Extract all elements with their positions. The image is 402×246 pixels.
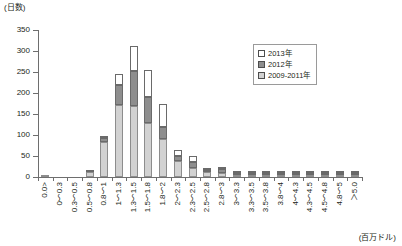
y-axis-unit-label: (日数) — [4, 3, 25, 13]
x-axis-tick-label: 2〜2.3 — [174, 182, 182, 206]
legend-label-2013: 2013年 — [268, 49, 292, 58]
bar-segment-2009-2011 — [277, 175, 285, 177]
bar-stack — [233, 171, 241, 177]
x-axis-tick — [318, 177, 319, 181]
x-axis-tick-label: 3.5〜3.8 — [262, 182, 270, 212]
bar-stack — [189, 156, 197, 177]
bar-segment-2012 — [144, 97, 152, 123]
bar-segment-2009-2011 — [351, 175, 359, 177]
x-axis-tick — [112, 177, 113, 181]
histogram-chart: (日数) 050100150200250300350 0.0>0〜0.30.3〜… — [0, 0, 402, 246]
bar-stack — [41, 175, 49, 177]
x-axis-tick — [229, 177, 230, 181]
y-axis-tick-label: 100 — [17, 131, 30, 139]
bar-stack — [86, 170, 94, 177]
x-axis-tick — [67, 177, 68, 181]
legend-swatch-icon-2009-2011 — [258, 72, 265, 79]
bar-stack — [277, 171, 285, 177]
x-axis-tick-label: 4.8〜5 — [336, 182, 344, 206]
x-axis-tick-label: 2.8〜3 — [218, 182, 226, 206]
x-axis-tick — [126, 177, 127, 181]
x-axis-tick — [38, 177, 39, 181]
y-axis-tick-label: 350 — [17, 26, 30, 34]
bar-stack — [115, 74, 123, 177]
x-axis-tick-label: 1〜1.3 — [115, 182, 123, 206]
bar-stack — [262, 171, 270, 177]
x-axis-tick — [347, 177, 348, 181]
x-axis-tick-label: 1.5〜1.8 — [144, 182, 152, 212]
bar-segment-2013 — [159, 104, 167, 127]
bar-segment-2009-2011 — [86, 172, 94, 177]
x-axis-tick-label: 0.5〜0.8 — [86, 182, 94, 212]
x-axis-tick-label: ＞5.0 — [351, 182, 359, 201]
bar-segment-2009-2011 — [306, 175, 314, 177]
bar-segment-2009-2011 — [115, 105, 123, 177]
x-axis-tick-label: 3〜3.3 — [233, 182, 241, 206]
y-axis-tick-label: 300 — [17, 47, 30, 55]
x-axis-tick — [82, 177, 83, 181]
x-axis-unit-label: (百万ドル) — [359, 233, 396, 242]
bar-stack — [351, 171, 359, 177]
x-axis-tick-label: 4.5〜4.8 — [321, 182, 329, 212]
bar-stack — [321, 171, 329, 177]
x-axis-tick-label: 1.8〜2 — [159, 182, 167, 206]
x-axis-tick — [215, 177, 216, 181]
x-axis-tick — [274, 177, 275, 181]
bar-segment-2012 — [130, 71, 138, 106]
x-axis-tick-label: 0.8〜1 — [100, 182, 108, 206]
bar-segment-2009-2011 — [262, 175, 270, 177]
x-axis-tick-label: 3.8〜4 — [277, 182, 285, 206]
bar-segment-2009-2011 — [218, 173, 226, 177]
bar-stack — [218, 167, 226, 177]
bar-segment-2009-2011 — [174, 161, 182, 177]
legend-swatch-icon-2013 — [258, 50, 265, 57]
x-axis-tick — [244, 177, 245, 181]
bar-segment-2013 — [144, 70, 152, 97]
bar-stack — [336, 171, 344, 177]
legend-item-2013: 2013年 — [258, 48, 310, 59]
x-axis-tick — [303, 177, 304, 181]
y-axis-tick-label: 50 — [21, 152, 30, 160]
legend-label-2009-2011: 2009-2011年 — [268, 71, 310, 80]
x-axis-tick-label: 3.3〜3.5 — [248, 182, 256, 212]
x-axis-tick-label: 2.3〜2.5 — [189, 182, 197, 212]
bar-segment-2009-2011 — [233, 175, 241, 177]
y-axis-tick-label: 150 — [17, 110, 30, 118]
bar-segment-2009-2011 — [203, 172, 211, 177]
x-axis-tick — [333, 177, 334, 181]
y-axis-tick-label: 0 — [26, 173, 30, 181]
bar-segment-2009-2011 — [100, 142, 108, 177]
x-axis-tick — [156, 177, 157, 181]
x-axis-tick — [288, 177, 289, 181]
legend-swatch-icon-2012 — [258, 61, 265, 68]
bar-segment-2013 — [130, 46, 138, 72]
bar-segment-2009-2011 — [41, 175, 49, 177]
bar-segment-2009-2011 — [248, 175, 256, 177]
legend-label-2012: 2012年 — [268, 60, 292, 69]
x-axis-tick-label: 0〜0.3 — [56, 182, 64, 206]
bar-stack — [159, 104, 167, 177]
y-axis-tick-label: 200 — [17, 89, 30, 97]
x-axis-tick-label: 1.3〜1.5 — [130, 182, 138, 212]
x-axis-tick — [171, 177, 172, 181]
bar-segment-2009-2011 — [189, 168, 197, 177]
legend-item-2009-2011: 2009-2011年 — [258, 70, 310, 81]
bar-segment-2009-2011 — [321, 175, 329, 177]
x-axis-tick — [53, 177, 54, 181]
x-axis-tick — [97, 177, 98, 181]
x-axis-tick — [185, 177, 186, 181]
bar-stack — [292, 171, 300, 177]
x-axis-tick — [259, 177, 260, 181]
bar-segment-2013 — [115, 74, 123, 85]
x-axis-tick — [362, 177, 363, 181]
x-axis-tick-label: 0.0> — [41, 182, 49, 198]
bar-segment-2012 — [115, 85, 123, 105]
chart-legend: 2013年 2012年 2009-2011年 — [253, 44, 317, 85]
bar-stack — [130, 46, 138, 177]
bar-stack — [100, 136, 108, 177]
bar-stack — [248, 171, 256, 177]
x-axis-tick-label: 2.5〜2.8 — [203, 182, 211, 212]
bar-segment-2009-2011 — [336, 175, 344, 177]
bar-segment-2009-2011 — [130, 106, 138, 177]
x-axis-tick — [200, 177, 201, 181]
